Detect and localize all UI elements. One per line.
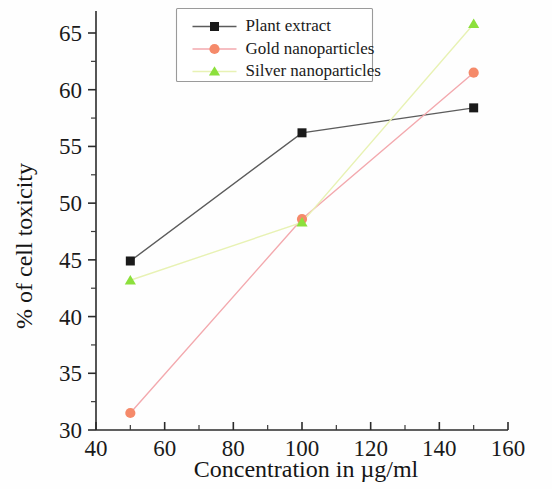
series-line-1 xyxy=(130,73,473,413)
line-chart-canvas: 3035404550556065 406080100120140160 Conc… xyxy=(0,0,552,489)
y-tick-label: 55 xyxy=(59,134,82,159)
y-tick-label: 30 xyxy=(59,418,82,443)
y-tick-label: 65 xyxy=(59,21,82,46)
data-point-marker xyxy=(126,256,135,265)
data-point-marker xyxy=(468,19,479,28)
x-axis-ticks xyxy=(96,422,508,430)
legend-label: Plant extract xyxy=(246,16,332,35)
legend-label: Gold nanoparticles xyxy=(246,39,375,58)
y-axis-ticks xyxy=(88,33,96,430)
y-tick-label: 60 xyxy=(59,78,82,103)
legend-marker xyxy=(210,22,219,31)
data-point-marker xyxy=(298,128,307,137)
x-tick-label: 60 xyxy=(153,436,176,461)
y-tick-label: 35 xyxy=(59,361,82,386)
x-axis-title: Concentration in µg/ml xyxy=(194,456,419,482)
data-point-marker xyxy=(469,103,478,112)
data-point-marker xyxy=(469,68,479,78)
chart-figure: 3035404550556065 406080100120140160 Conc… xyxy=(0,0,552,489)
legend-label: Silver nanoparticles xyxy=(246,61,382,80)
chart-legend: Plant extractGold nanoparticlesSilver na… xyxy=(177,9,382,82)
x-tick-label: 40 xyxy=(85,436,108,461)
y-tick-label: 40 xyxy=(59,305,82,330)
x-tick-label: 160 xyxy=(491,436,526,461)
y-tick-label: 50 xyxy=(59,191,82,216)
y-axis-title: % of cell toxicity xyxy=(11,163,37,329)
y-tick-label: 45 xyxy=(59,248,82,273)
legend-marker xyxy=(209,44,219,54)
data-point-marker xyxy=(125,408,135,418)
y-axis-tick-labels: 3035404550556065 xyxy=(59,21,82,443)
x-tick-label: 140 xyxy=(422,436,457,461)
